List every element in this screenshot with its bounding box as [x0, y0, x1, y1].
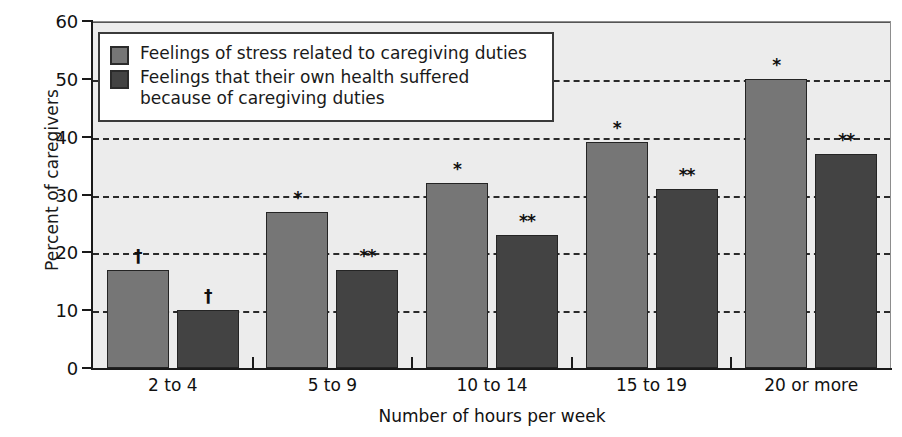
y-axis-tick-label: 50: [55, 68, 78, 89]
bar-significance-marker: †: [204, 288, 212, 305]
y-axis-tick-label: 40: [55, 126, 78, 147]
y-axis-tick-mark: [82, 367, 91, 369]
y-axis-tick-label: 60: [55, 11, 78, 32]
y-axis-tick-labels: 0102030405060: [38, 0, 78, 437]
bar-significance-marker: *: [613, 120, 621, 137]
x-axis-tick-mark: [252, 357, 254, 368]
y-axis-tick-label: 30: [55, 184, 78, 205]
legend-label-health: Feelings that their own health suffered …: [140, 67, 542, 110]
bar-chart: Percent of caregivers 0102030405060 ††**…: [0, 0, 902, 437]
bar: [815, 154, 877, 368]
legend-swatch-icon-health: [110, 70, 129, 89]
bar: [107, 270, 169, 368]
legend-entry-stress: Feelings of stress related to caregiving…: [110, 43, 542, 65]
bar: [336, 270, 398, 368]
y-axis-tick-mark: [82, 251, 91, 253]
y-axis-tick-mark: [82, 20, 91, 22]
bar: [496, 235, 558, 368]
y-axis-tick-label: 20: [55, 242, 78, 263]
x-axis-tick-mark: [571, 357, 573, 368]
bar: [177, 310, 239, 368]
bar: [426, 183, 488, 368]
bar-significance-marker: **: [360, 248, 376, 265]
x-axis-line: [91, 368, 892, 370]
bar-significance-marker: *: [772, 57, 780, 74]
y-axis-tick-mark: [82, 136, 91, 138]
x-axis-category-label: 20 or more: [764, 375, 858, 395]
x-axis-tick-mark: [411, 357, 413, 368]
bar: [266, 212, 328, 368]
x-axis-category-label: 15 to 19: [616, 375, 687, 395]
bar-significance-marker: *: [293, 190, 301, 207]
legend-swatch-icon-stress: [110, 46, 129, 65]
x-axis-category-label: 2 to 4: [148, 375, 198, 395]
bar-significance-marker: †: [134, 248, 142, 265]
y-axis-tick-mark: [82, 78, 91, 80]
legend-entry-health: Feelings that their own health suffered …: [110, 67, 542, 110]
bar: [586, 142, 648, 368]
x-axis-category-label: 5 to 9: [308, 375, 358, 395]
y-axis-tick-mark: [82, 309, 91, 311]
bar: [745, 79, 807, 368]
y-axis-tick-mark: [82, 194, 91, 196]
legend-label-stress: Feelings of stress related to caregiving…: [140, 43, 527, 64]
y-axis-tick-label: 0: [67, 358, 78, 379]
x-axis-tick-mark: [730, 357, 732, 368]
bar-significance-marker: *: [453, 161, 461, 178]
x-axis-title: Number of hours per week: [93, 406, 891, 426]
y-axis-tick-label: 10: [55, 300, 78, 321]
x-axis-category-label: 10 to 14: [456, 375, 527, 395]
bar-significance-marker: **: [838, 132, 854, 149]
chart-legend: Feelings of stress related to caregiving…: [98, 32, 554, 122]
bar-significance-marker: **: [519, 213, 535, 230]
bar-significance-marker: **: [679, 167, 695, 184]
bar: [656, 189, 718, 368]
